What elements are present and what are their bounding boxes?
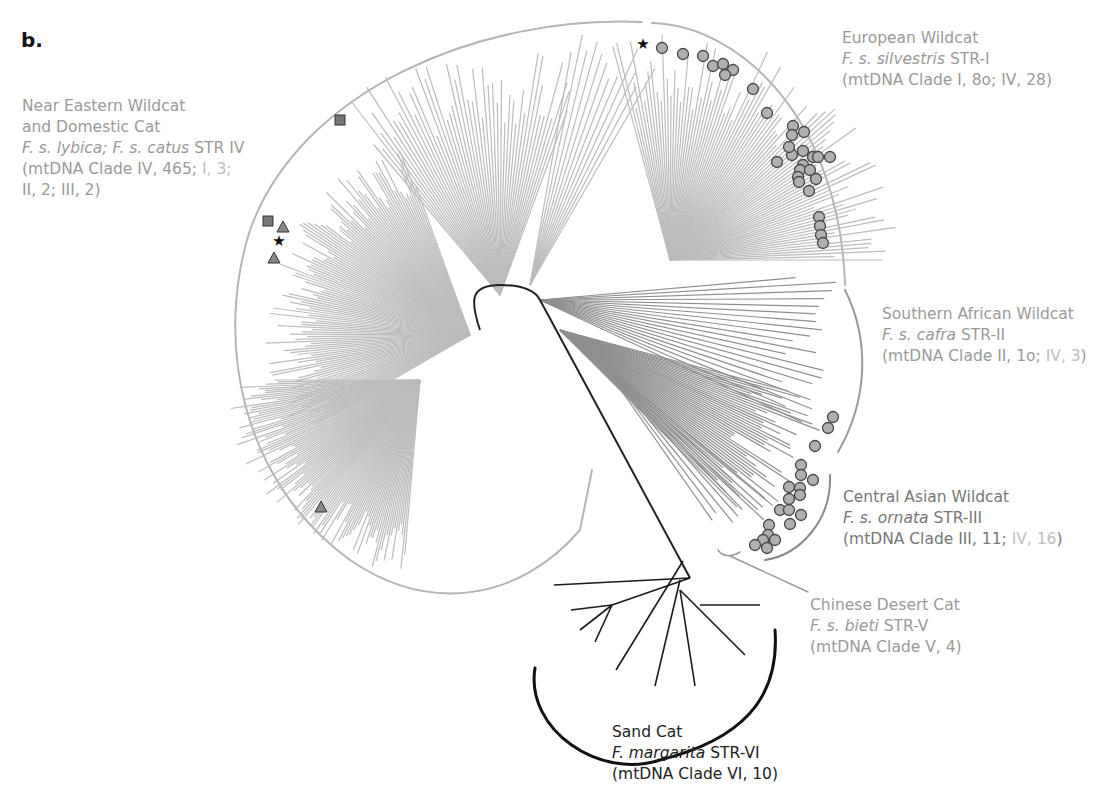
circle-marker [762, 543, 773, 554]
circle-marker [708, 61, 719, 72]
circle-marker [785, 519, 796, 530]
circle-marker [762, 108, 773, 119]
square-marker [263, 216, 273, 226]
str-group: STR-I [950, 50, 990, 68]
str-group: STR-VI [710, 744, 759, 762]
mtdna-info-minor: IV, 16 [1012, 530, 1057, 548]
common-name: Central Asian Wildcat [843, 487, 1063, 508]
circle-marker [784, 494, 795, 505]
circle-marker [764, 520, 775, 531]
chinese-desert-leader [730, 556, 808, 592]
mtdna-info-minor: IV, 3 [1046, 347, 1081, 365]
str-group: STR-III [933, 509, 982, 527]
star-marker: ★ [636, 35, 649, 53]
clade-label-sand-cat: Sand Cat F. margarita STR-VI (mtDNA Clad… [612, 722, 778, 785]
mtdna-info: (mtDNA Clade I, 8o; IV, 28) [842, 70, 1052, 91]
mtdna-close: ) [1056, 530, 1062, 548]
clade-label-central-asian: Central Asian Wildcat F. s. ornata STR-I… [843, 487, 1063, 550]
species-name: F. margarita [612, 744, 705, 762]
circle-marker [818, 238, 829, 249]
circle-marker [808, 475, 819, 486]
circle-marker [772, 157, 783, 168]
common-name: Sand Cat [612, 722, 778, 743]
species-name: F. s. silvestris [842, 50, 945, 68]
mtdna-info-2: II, 2; III, 2) [22, 180, 244, 201]
str-group: STR-II [961, 326, 1005, 344]
circle-marker [828, 412, 839, 423]
circle-marker [784, 505, 795, 516]
circle-marker [811, 174, 822, 185]
circle-marker [810, 441, 821, 452]
mtdna-info: (mtDNA Clade II, 1o; [882, 347, 1041, 365]
circle-marker [796, 510, 807, 521]
str-group: STR IV [194, 139, 244, 157]
circle-marker [698, 51, 709, 62]
mtdna-close: ) [1081, 347, 1087, 365]
circle-marker [825, 152, 836, 163]
clade-arc-southern-african [838, 290, 862, 452]
clade-label-southern-african: Southern African Wildcat F. s. cafra STR… [882, 304, 1087, 367]
star-marker: ★ [272, 232, 285, 250]
mtdna-info: (mtDNA Clade III, 11; [843, 530, 1007, 548]
species-name: F. s. lybica; F. s. catus [22, 139, 189, 157]
circle-marker [796, 470, 807, 481]
circle-marker [804, 186, 815, 197]
str-group: STR-V [884, 617, 929, 635]
circle-marker [678, 49, 689, 60]
circle-marker [813, 152, 824, 163]
circle-marker [718, 59, 729, 70]
common-name: Near Eastern Wildcat [22, 96, 244, 117]
mtdna-info: (mtDNA Clade V, 4) [810, 637, 962, 658]
circle-marker [657, 43, 668, 54]
mtdna-info: (mtDNA Clade IV, 465; [22, 160, 197, 178]
clade-label-european: European Wildcat F. s. silvestris STR-I … [842, 28, 1052, 91]
common-name: Southern African Wildcat [882, 304, 1087, 325]
circle-marker [720, 70, 731, 81]
species-name: F. s. bieti [810, 617, 879, 635]
circle-marker [784, 482, 795, 493]
species-name: F. s. ornata [843, 509, 928, 527]
triangle-marker [268, 252, 280, 263]
clade-arc-chinese-desert [718, 550, 740, 556]
clade-label-near-eastern: Near Eastern Wildcat and Domestic Cat F.… [22, 96, 244, 201]
species-name: F. s. cafra [882, 326, 956, 344]
clade-label-chinese-desert: Chinese Desert Cat F. s. bieti STR-V (mt… [810, 595, 962, 658]
circle-marker [795, 490, 806, 501]
mtdna-info-minor: I, 3; [202, 160, 232, 178]
sand-cat-subtree [554, 561, 760, 686]
circle-marker [748, 84, 759, 95]
common-name: European Wildcat [842, 28, 1052, 49]
circle-marker [823, 423, 834, 434]
circle-marker [794, 177, 805, 188]
circle-marker [784, 142, 795, 153]
circle-marker [798, 146, 809, 157]
triangle-marker [277, 221, 289, 232]
circle-marker [750, 540, 761, 551]
circle-marker [799, 127, 810, 138]
common-name-2: and Domestic Cat [22, 117, 244, 138]
common-name: Chinese Desert Cat [810, 595, 962, 616]
mtdna-info: (mtDNA Clade VI, 10) [612, 764, 778, 785]
circle-marker [787, 130, 798, 141]
square-marker [335, 115, 345, 125]
